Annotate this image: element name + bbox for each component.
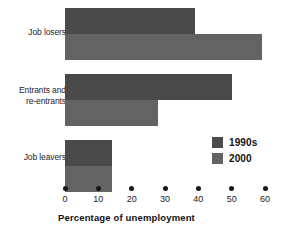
category-label-line: Job losers xyxy=(4,27,66,38)
x-axis-tick-label: 40 xyxy=(186,194,210,204)
category-label-line: Job leavers xyxy=(4,152,66,163)
bar-job-losers-1990s xyxy=(65,8,195,34)
category-label-job-losers: Job losers xyxy=(4,27,66,38)
x-axis-tick-dot-icon xyxy=(63,186,68,191)
x-axis-tick-dot-icon xyxy=(129,186,134,191)
x-axis: 0102030405060 xyxy=(65,186,265,212)
bar-chart: Job losers Entrants and re-entrants Job … xyxy=(0,0,288,235)
bar-job-losers-2000 xyxy=(65,34,262,60)
x-axis-tick-label: 50 xyxy=(220,194,244,204)
category-label-job-leavers: Job leavers xyxy=(4,152,66,163)
x-axis-tick-dot-icon xyxy=(96,186,101,191)
category-label-line: re-entrants xyxy=(4,96,66,107)
category-label-entrants-and-re-entrants: Entrants and re-entrants xyxy=(4,85,66,106)
x-axis-title: Percentage of unemployment xyxy=(58,212,195,223)
x-axis-tick-label: 0 xyxy=(53,194,77,204)
x-axis-tick-label: 30 xyxy=(153,194,177,204)
legend: 1990s 2000 xyxy=(212,137,257,169)
legend-swatch-1990s xyxy=(212,137,223,148)
x-axis-tick: 50 xyxy=(220,186,244,204)
x-axis-tick: 40 xyxy=(186,186,210,204)
x-axis-tick: 20 xyxy=(120,186,144,204)
x-axis-tick: 60 xyxy=(253,186,277,204)
legend-label-2000: 2000 xyxy=(229,153,252,164)
x-axis-tick-label: 10 xyxy=(86,194,110,204)
x-axis-tick-dot-icon xyxy=(229,186,234,191)
legend-item-2000: 2000 xyxy=(212,153,257,164)
bar-group-job-losers xyxy=(65,8,265,60)
x-axis-tick-dot-icon xyxy=(263,186,268,191)
legend-label-1990s: 1990s xyxy=(229,137,257,148)
legend-swatch-2000 xyxy=(212,153,223,164)
bar-entrants-and-re-entrants-1990s xyxy=(65,74,232,100)
x-axis-tick: 30 xyxy=(153,186,177,204)
legend-item-1990s: 1990s xyxy=(212,137,257,148)
x-axis-tick: 0 xyxy=(53,186,77,204)
category-label-line: Entrants and xyxy=(4,85,66,96)
bar-job-leavers-1990s xyxy=(65,140,112,166)
x-axis-tick: 10 xyxy=(86,186,110,204)
x-axis-tick-label: 60 xyxy=(253,194,277,204)
bar-group-entrants-and-re-entrants xyxy=(65,74,265,126)
x-axis-tick-dot-icon xyxy=(163,186,168,191)
bar-entrants-and-re-entrants-2000 xyxy=(65,100,158,126)
x-axis-tick-dot-icon xyxy=(196,186,201,191)
x-axis-tick-label: 20 xyxy=(120,194,144,204)
